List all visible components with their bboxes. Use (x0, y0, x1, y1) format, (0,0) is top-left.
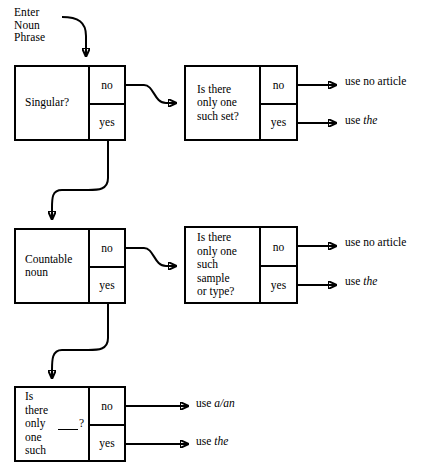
node-one-such-set-question: Is there only one such set? (186, 67, 259, 139)
node-one-such-sample-branch-no[interactable]: no (261, 228, 296, 265)
node-one-such-blank-branch-no[interactable]: no (90, 388, 124, 424)
node-countable-noun-branch-no[interactable]: no (90, 230, 124, 266)
entry-arrow (62, 17, 86, 56)
node-singular-branches: no yes (88, 67, 124, 139)
fill-in-blank (58, 420, 78, 430)
node-countable-noun: Countable noun no yes (14, 228, 126, 304)
outcome-prefix: use (196, 397, 214, 409)
outcome-use-a-an: use a/an (196, 397, 235, 410)
node-one-such-sample-question: Is there only one such sample or type? (186, 228, 259, 302)
wire-singular-yes (52, 141, 108, 219)
node-singular-branch-no[interactable]: no (90, 67, 124, 103)
outcome-prefix: use (345, 114, 363, 126)
outcome-emphasis: the (363, 114, 377, 126)
node-one-such-blank-branches: no yes (88, 388, 124, 460)
entry-label: Enter Noun Phrase (14, 6, 45, 44)
node-one-such-blank-branch-yes[interactable]: yes (90, 424, 124, 460)
node-one-such-blank-question-text: Is there only one such (25, 390, 56, 457)
node-singular-question: Singular? (16, 67, 88, 139)
node-countable-noun-question: Countable noun (16, 230, 88, 302)
node-one-such-blank: Is there only one such ? no yes (14, 386, 126, 462)
wire-countable-no (126, 248, 176, 266)
outcome-suffix: no article (363, 75, 406, 87)
node-singular: Singular? no yes (14, 65, 126, 141)
node-one-such-set-branch-yes[interactable]: yes (261, 103, 296, 139)
outcome-suffix: no article (363, 236, 406, 248)
node-one-such-set: Is there only one such set? no yes (184, 65, 298, 141)
outcome-use-the-blank: use the (196, 435, 228, 448)
node-one-such-set-branches: no yes (259, 67, 296, 139)
wire-countable-yes (52, 304, 108, 378)
outcome-use-no-article-set: use no article (345, 75, 406, 88)
node-countable-noun-branches: no yes (88, 230, 124, 302)
node-one-such-blank-question: Is there only one such ? (16, 388, 88, 460)
node-one-such-blank-question-mark: ? (79, 417, 84, 430)
node-one-such-set-branch-no[interactable]: no (261, 67, 296, 103)
outcome-emphasis: a/an (214, 397, 234, 409)
outcome-prefix: use (345, 236, 363, 248)
outcome-emphasis: the (214, 435, 228, 447)
outcome-prefix: use (345, 75, 363, 87)
node-one-such-sample-branch-yes[interactable]: yes (261, 265, 296, 302)
outcome-use-the-set: use the (345, 114, 377, 127)
outcome-prefix: use (196, 435, 214, 447)
outcome-prefix: use (345, 275, 363, 287)
outcome-emphasis: the (363, 275, 377, 287)
flowchart-diagram: Enter Noun Phrase Singular? no yes Is th… (0, 0, 428, 473)
node-one-such-sample-branches: no yes (259, 228, 296, 302)
node-singular-branch-yes[interactable]: yes (90, 103, 124, 139)
outcome-use-the-sample: use the (345, 275, 377, 288)
node-countable-noun-branch-yes[interactable]: yes (90, 266, 124, 302)
outcome-use-no-article-sample: use no article (345, 236, 406, 249)
node-one-such-sample: Is there only one such sample or type? n… (184, 226, 298, 304)
wire-singular-no (126, 85, 176, 103)
